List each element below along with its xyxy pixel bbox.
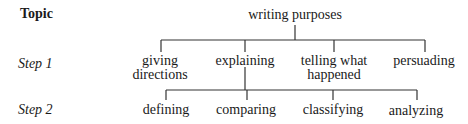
node-line: persuading: [393, 54, 454, 68]
node-line: explaining: [215, 54, 274, 68]
step1-node-giving-directions: giving directions: [132, 54, 187, 82]
root-node: writing purposes: [248, 8, 342, 22]
node-line: giving: [132, 54, 187, 68]
step2-node-defining: defining: [143, 103, 190, 117]
writing-purposes-tree-diagram: Topic Step 1 Step 2 writing purposes giv…: [0, 0, 468, 124]
step1-node-persuading: persuading: [393, 54, 454, 68]
step1-node-explaining: explaining: [215, 54, 274, 68]
row-label-step2: Step 2: [18, 102, 53, 117]
step2-node-analyzing: analyzing: [389, 104, 443, 118]
node-line: telling what: [301, 54, 368, 68]
row-label-step1: Step 1: [18, 56, 53, 71]
row-label-topic: Topic: [20, 6, 53, 21]
step1-node-telling-what-happened: telling what happened: [301, 54, 368, 82]
node-line: directions: [132, 68, 187, 82]
step2-node-classifying: classifying: [303, 103, 364, 117]
step2-node-comparing: comparing: [216, 103, 276, 117]
node-line: happened: [301, 68, 368, 82]
